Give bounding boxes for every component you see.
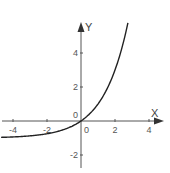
x-tick-label: -4 xyxy=(9,125,17,135)
x-tick-label: 2 xyxy=(112,125,117,135)
origin-label: 0 xyxy=(73,110,78,120)
x-tick-label: 4 xyxy=(146,125,151,135)
function-plot: -4-2024 -224 X Y 0 xyxy=(0,0,170,173)
y-axis-arrow-icon xyxy=(78,22,85,32)
y-tick-label: 2 xyxy=(73,82,78,92)
y-tick-label: -2 xyxy=(70,150,78,160)
function-curve xyxy=(1,23,128,138)
y-tick-label: 4 xyxy=(73,48,78,58)
y-axis-label: Y xyxy=(85,21,93,33)
x-axis-label: X xyxy=(151,107,159,119)
x-tick-label: 0 xyxy=(84,125,89,135)
